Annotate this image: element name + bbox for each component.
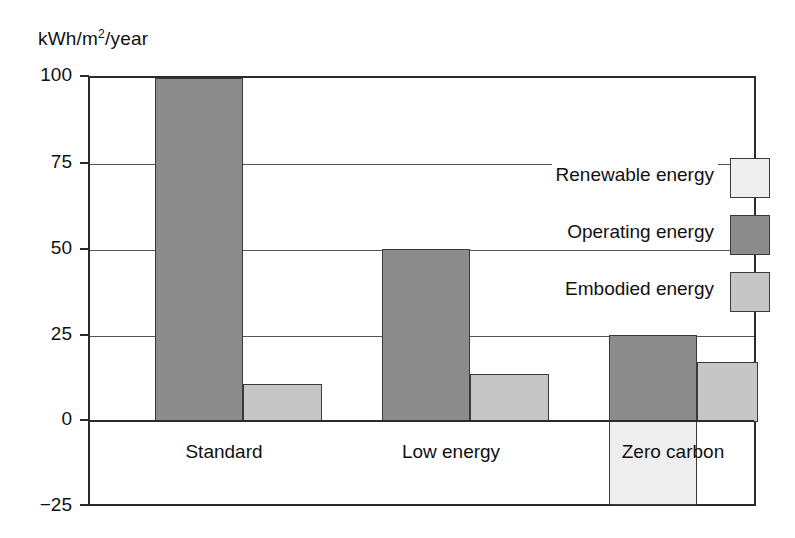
y-axis-unit-post: /year <box>105 28 148 49</box>
x-category-label-low-energy: Low energy <box>366 441 536 463</box>
bar-lowenergy-embodied <box>470 374 549 422</box>
legend-item-operating: Operating energy <box>530 213 780 253</box>
legend-swatch-renewable <box>730 158 770 198</box>
legend-label-embodied: Embodied energy <box>561 276 718 302</box>
y-tick-label-0: 0 <box>10 408 72 430</box>
plot-area: Standard Low energy Zero carbon Renewabl… <box>88 76 756 506</box>
x-category-label-zero-carbon: Zero carbon <box>578 441 768 463</box>
x-category-label-standard: Standard <box>139 441 309 463</box>
bar-standard-embodied <box>243 384 322 422</box>
legend-swatch-embodied <box>730 272 770 312</box>
y-axis-unit-sup: 2 <box>98 27 105 41</box>
legend-item-renewable: Renewable energy <box>530 156 780 196</box>
y-tick-label-100: 100 <box>10 64 72 86</box>
bar-standard-operating <box>155 78 243 422</box>
legend-label-operating: Operating energy <box>563 219 718 245</box>
bar-zerocarbon-renewable <box>609 421 697 505</box>
bar-zerocarbon-embodied <box>697 362 758 422</box>
y-tick-label-50: 50 <box>10 237 72 259</box>
y-tick-label-75: 75 <box>10 151 72 173</box>
bar-zerocarbon-operating <box>609 335 697 422</box>
zero-baseline <box>90 420 754 422</box>
y-axis-unit-label: kWh/m2/year <box>38 28 148 50</box>
legend-label-renewable: Renewable energy <box>552 162 718 188</box>
y-axis-unit-pre: kWh/m <box>38 28 98 49</box>
bar-chart: kWh/m2/year 100 75 50 25 0 −25 Standard … <box>0 0 795 538</box>
legend-swatch-operating <box>730 215 770 255</box>
y-tick-label-25: 25 <box>10 323 72 345</box>
bar-lowenergy-operating <box>382 249 470 422</box>
y-tick-label-neg25: −25 <box>6 494 72 516</box>
legend-item-embodied: Embodied energy <box>530 270 780 310</box>
